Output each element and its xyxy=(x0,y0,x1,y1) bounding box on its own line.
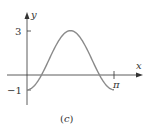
y-axis-arrow-icon xyxy=(25,12,30,19)
function-curve xyxy=(27,31,114,90)
y-tick-label-3: 3 xyxy=(15,26,21,37)
y-tick-label-minus-1: −1 xyxy=(7,85,22,96)
figure-caption: (c) xyxy=(60,113,74,124)
chart: y x 3 −1 π (c) xyxy=(0,0,149,134)
caption-letter: c xyxy=(64,113,70,124)
x-tick-label-pi: π xyxy=(112,79,120,90)
x-axis-label: x xyxy=(136,60,142,71)
x-axis-arrow-icon xyxy=(136,73,143,78)
y-axis-label: y xyxy=(30,9,37,20)
